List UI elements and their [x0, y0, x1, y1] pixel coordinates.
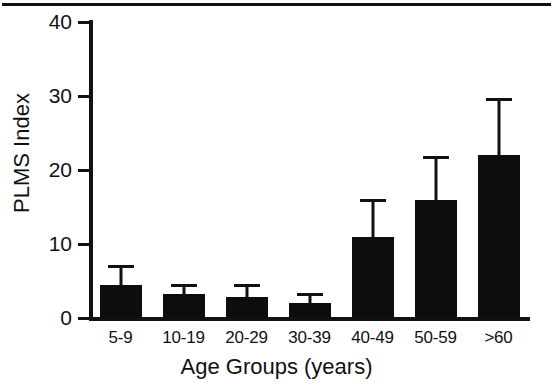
error-bar-2: [245, 287, 248, 297]
x-tick-label-4: 40-49: [341, 325, 404, 351]
x-tick-label-0: 5-9: [89, 325, 152, 351]
error-bar-6: [497, 101, 500, 155]
error-bar-0: [119, 268, 122, 284]
bar-4: [352, 237, 394, 318]
figure-bar-chart: 40 30 20 10 0: [0, 0, 553, 390]
bar-5: [415, 200, 457, 318]
error-cap-5: [423, 156, 449, 159]
x-tick-label-5: 50-59: [404, 325, 467, 351]
bar-group-3: [278, 22, 341, 318]
bar-group-6: [467, 22, 530, 318]
bar-series: [89, 22, 530, 318]
y-tick-label-20: 20: [38, 159, 72, 180]
bar-3: [289, 303, 331, 318]
y-tick-label-30: 30: [38, 85, 72, 106]
bar-2: [226, 297, 268, 318]
y-tick-20: [78, 169, 89, 172]
bar-group-0: [89, 22, 152, 318]
bar-6: [478, 155, 520, 318]
y-axis-title: PLMS Index: [9, 53, 35, 253]
bar-group-4: [341, 22, 404, 318]
error-cap-4: [360, 199, 386, 202]
y-tick-30: [78, 95, 89, 98]
error-cap-1: [171, 284, 197, 287]
bar-1: [163, 294, 205, 318]
y-tick-10: [78, 243, 89, 246]
error-cap-2: [234, 284, 260, 287]
y-tick-label-0: 0: [38, 307, 72, 328]
x-tick-label-1: 10-19: [152, 325, 215, 351]
y-tick-40: [78, 21, 89, 24]
error-bar-4: [371, 202, 374, 237]
error-cap-0: [108, 265, 134, 268]
bar-0: [100, 285, 142, 318]
error-cap-6: [486, 98, 512, 101]
x-tick-label-2: 20-29: [215, 325, 278, 351]
x-tick-label-6: >60: [467, 325, 530, 351]
y-tick-label-10: 10: [38, 233, 72, 254]
bar-group-2: [215, 22, 278, 318]
error-bar-3: [308, 296, 311, 303]
x-tick-label-3: 30-39: [278, 325, 341, 351]
bar-group-5: [404, 22, 467, 318]
error-bar-5: [434, 159, 437, 200]
error-cap-3: [297, 293, 323, 296]
y-tick-label-40: 40: [38, 11, 72, 32]
error-bar-1: [182, 287, 185, 294]
y-tick-0: [78, 317, 89, 320]
x-axis-title: Age Groups (years): [0, 354, 553, 380]
bar-group-1: [152, 22, 215, 318]
x-tick-label-group: 5-9 10-19 20-29 30-39 40-49 50-59 >60: [89, 325, 530, 351]
